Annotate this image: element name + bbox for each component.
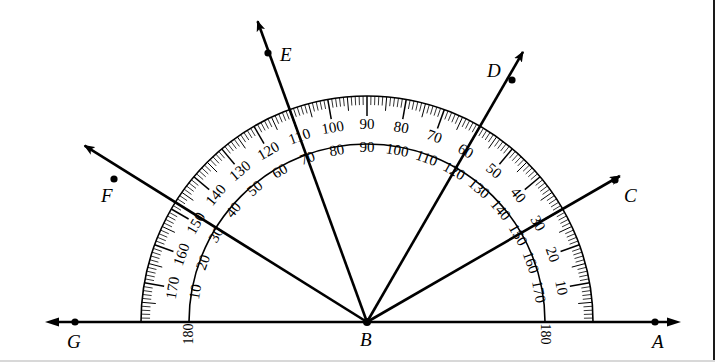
scale-tick-166 <box>148 267 157 269</box>
scale-tick-14 <box>578 267 587 269</box>
scale-tick-117 <box>264 121 268 129</box>
scale-tick-18 <box>573 252 582 255</box>
scale-end-number-right: 180 <box>538 324 553 345</box>
scale-tick-63 <box>466 121 470 129</box>
scale-tick-22 <box>568 237 576 240</box>
scale-tick-6 <box>583 298 592 299</box>
scale-tick-153 <box>166 219 174 223</box>
scale-tick-4 <box>583 306 592 307</box>
scale-tick-8 <box>582 291 591 292</box>
scale-tick-169 <box>145 279 154 281</box>
scale-tick-165 <box>149 264 163 268</box>
scale-tick-12 <box>579 275 588 277</box>
scale-tick-159 <box>156 241 164 244</box>
outer-scale-number-50: 50 <box>483 160 505 182</box>
point-dot-F <box>110 175 117 182</box>
outer-scale-number-170: 170 <box>163 275 183 300</box>
scale-tick-96 <box>343 97 344 106</box>
scale-tick-71 <box>438 108 441 117</box>
scale-tick-39 <box>536 180 543 186</box>
scale-tick-24 <box>565 230 573 234</box>
inner-scale-number-110: 110 <box>414 147 440 170</box>
scale-tick-111 <box>286 111 289 119</box>
scale-tick-136 <box>204 165 210 171</box>
scale-tick-134 <box>210 159 216 165</box>
scale-tick-97 <box>339 98 340 107</box>
scale-tick-137 <box>202 168 209 174</box>
ray-BD <box>367 52 523 322</box>
scale-tick-79 <box>408 100 410 109</box>
scale-tick-23 <box>567 234 575 238</box>
scale-tick-120 <box>254 126 264 143</box>
scale-tick-168 <box>146 275 155 277</box>
scale-tick-128 <box>228 144 234 151</box>
scale-tick-107 <box>301 106 304 115</box>
point-label-F: F <box>101 186 113 205</box>
inner-scale-number-80: 80 <box>328 141 346 159</box>
scale-tick-86 <box>382 97 383 106</box>
scale-tick-54 <box>495 139 500 146</box>
scale-tick-21 <box>570 241 578 244</box>
scale-tick-95 <box>347 97 348 111</box>
outer-scale-number-100: 100 <box>320 118 345 138</box>
scale-tick-68 <box>448 112 451 120</box>
scale-tick-69 <box>445 111 448 119</box>
scale-tick-104 <box>312 103 314 112</box>
scale-tick-143 <box>187 186 194 191</box>
scale-tick-100 <box>328 99 331 119</box>
scale-tick-34 <box>547 196 554 201</box>
scale-tick-103 <box>316 102 318 111</box>
scale-tick-135 <box>207 162 217 172</box>
scale-tick-64 <box>462 119 466 127</box>
point-dot-A <box>651 318 658 325</box>
scale-tick-160 <box>155 245 174 252</box>
scale-tick-121 <box>251 128 256 136</box>
scale-tick-141 <box>191 180 198 186</box>
scale-tick-118 <box>261 122 265 130</box>
scale-tick-73 <box>430 106 433 115</box>
scale-tick-156 <box>161 230 169 234</box>
point-dot-E <box>264 49 271 56</box>
scale-tick-52 <box>501 144 507 151</box>
inner-scale-number-100: 100 <box>385 140 410 160</box>
scale-tick-75 <box>422 104 426 118</box>
scale-tick-112 <box>282 112 285 120</box>
point-label-D: D <box>487 61 501 80</box>
inner-scale-number-140: 140 <box>487 196 514 224</box>
inner-scale-number-160: 160 <box>520 249 543 276</box>
scale-tick-46 <box>518 159 524 165</box>
scale-tick-66 <box>455 116 459 124</box>
scale-tick-74 <box>427 105 429 114</box>
scale-tick-173 <box>143 294 152 295</box>
scale-tick-7 <box>582 294 591 295</box>
scale-tick-55 <box>489 137 497 148</box>
scale-tick-15 <box>572 264 586 268</box>
outer-scale-number-40: 40 <box>507 184 529 206</box>
outer-scale-number-70: 70 <box>425 126 445 146</box>
scale-tick-67 <box>452 114 456 122</box>
scale-tick-105 <box>309 104 313 118</box>
scale-tick-125 <box>237 137 245 148</box>
outer-scale-number-140: 140 <box>202 181 229 209</box>
baseline-left-arrowhead <box>45 318 59 327</box>
scale-tick-109 <box>293 108 296 117</box>
scale-tick-11 <box>580 279 589 281</box>
scale-tick-122 <box>247 130 252 138</box>
scale-tick-126 <box>234 139 239 146</box>
scale-tick-145 <box>182 192 193 200</box>
scale-tick-116 <box>268 119 272 127</box>
ray-BC <box>367 176 620 322</box>
scale-tick-133 <box>213 157 219 164</box>
scale-tick-132 <box>216 154 222 161</box>
inner-scale-number-170: 170 <box>529 279 549 304</box>
scale-tick-33 <box>549 199 557 204</box>
point-label-C: C <box>624 186 637 205</box>
scale-tick-36 <box>543 189 550 194</box>
point-label-G: G <box>67 332 81 351</box>
scale-tick-81 <box>401 99 402 108</box>
scale-tick-28 <box>559 216 567 220</box>
scale-tick-131 <box>219 151 225 158</box>
scale-tick-171 <box>144 287 153 288</box>
point-dot-D <box>508 76 515 83</box>
outer-scale-number-160: 160 <box>170 241 193 268</box>
